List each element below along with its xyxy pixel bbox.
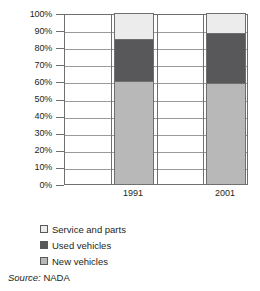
y-tick-label: 40% (35, 112, 52, 121)
y-tick-label: 70% (35, 61, 52, 70)
gridline-vertical (111, 15, 112, 184)
bar-stack-1991 (114, 13, 154, 184)
source-note: Source: NADA (8, 272, 70, 283)
y-tick-mark (56, 151, 64, 152)
bar-stack-2001 (206, 13, 246, 184)
y-tick-label: 50% (35, 95, 52, 104)
bar-segment (206, 13, 246, 34)
chart-legend: Service and partsUsed vehiclesNew vehicl… (40, 221, 240, 269)
y-tick-label: 20% (35, 146, 52, 155)
x-axis: 19912001 (64, 188, 248, 204)
y-tick-label: 80% (35, 44, 52, 53)
legend-label: Service and parts (52, 224, 126, 235)
legend-item[interactable]: New vehicles (40, 253, 240, 269)
stacked-bar-chart: 0%10%20%30%40%50%60%70%80%90%100% 199120… (0, 0, 260, 291)
y-tick-label: 100% (30, 10, 52, 19)
y-tick-mark (56, 100, 64, 101)
y-tick-mark (56, 31, 64, 32)
y-tick-mark (56, 185, 64, 186)
y-axis: 0%10%20%30%40%50%60%70%80%90%100% (0, 0, 64, 199)
y-tick-mark (56, 117, 64, 118)
y-tick-mark (56, 134, 64, 135)
bar-segment (114, 81, 154, 185)
x-tick-label: 1991 (113, 188, 153, 199)
y-tick-mark (56, 14, 64, 15)
bar-segment (206, 33, 246, 84)
bar-segment (114, 39, 154, 82)
plot-area (64, 14, 248, 185)
legend-swatch-icon (40, 241, 48, 249)
y-tick-mark (56, 168, 64, 169)
bar-segment (206, 83, 246, 185)
y-tick-label: 30% (35, 129, 52, 138)
y-tick-mark (56, 48, 64, 49)
legend-item[interactable]: Used vehicles (40, 237, 240, 253)
legend-swatch-icon (40, 257, 48, 265)
gridline-vertical (157, 15, 158, 184)
y-tick-mark (56, 82, 64, 83)
y-tick-label: 60% (35, 78, 52, 87)
legend-swatch-icon (40, 225, 48, 233)
legend-label: Used vehicles (52, 240, 111, 251)
y-tick-label: 90% (35, 27, 52, 36)
legend-label: New vehicles (52, 256, 108, 267)
y-tick-label: 0% (39, 181, 52, 190)
y-tick-label: 10% (35, 163, 52, 172)
y-tick-mark (56, 65, 64, 66)
bar-segment (114, 13, 154, 40)
legend-item[interactable]: Service and parts (40, 221, 240, 237)
gridline-vertical (203, 15, 204, 184)
source-value: NADA (43, 272, 69, 283)
source-label: Source: (8, 272, 41, 283)
x-tick-label: 2001 (205, 188, 245, 199)
